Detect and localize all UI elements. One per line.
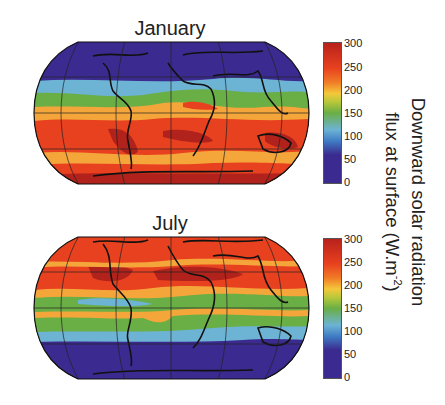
ylabel-line1: Downward solar radiation [408, 98, 428, 307]
tick-300: 300 [344, 38, 362, 49]
ylabel-line2-text: flux at surface (W.m [382, 112, 403, 275]
colorbar-january [323, 42, 342, 184]
tick-250: 250 [344, 257, 362, 268]
tick-100: 100 [344, 131, 362, 142]
tick-200: 200 [344, 85, 362, 96]
ylabel-close-paren: ) [382, 286, 403, 292]
tick-250: 250 [344, 62, 362, 73]
map-january [33, 41, 310, 185]
ylabel-line2: flux at surface (W.m-2) [382, 98, 407, 307]
colorbar-july [323, 238, 342, 379]
tick-100: 100 [344, 326, 362, 337]
colorbar-axis-label: Downward solar radiation flux at surface… [382, 98, 427, 307]
tick-200: 200 [344, 280, 362, 291]
ylabel-superscript: -2 [392, 276, 404, 286]
tick-50: 50 [344, 154, 356, 165]
tick-150: 150 [344, 303, 362, 314]
map-july [33, 236, 310, 380]
tick-300: 300 [344, 234, 362, 245]
title-january: January [110, 17, 230, 40]
tick-150: 150 [344, 108, 362, 119]
title-july: July [110, 212, 230, 235]
tick-50: 50 [344, 349, 356, 360]
tick-0: 0 [344, 372, 350, 383]
tick-0: 0 [344, 177, 350, 188]
